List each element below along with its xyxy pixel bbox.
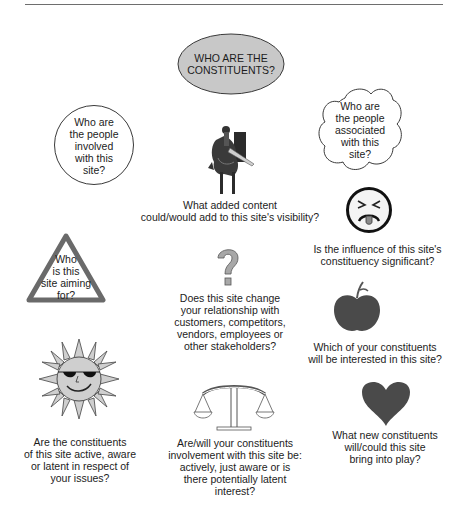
caption-line: interest? <box>160 485 310 497</box>
triangle-line: is this <box>25 265 107 277</box>
circle-line: with this <box>53 152 135 164</box>
triangle-line: site aiming <box>25 277 107 289</box>
cloud-line: associated <box>315 124 405 136</box>
face-caption: Is the influence of this site's constitu… <box>300 243 455 267</box>
cloud-bubble: Who are the people associated with this … <box>315 84 405 174</box>
caption-line: Does this site change <box>150 292 310 304</box>
caption-line: your issues? <box>20 472 140 484</box>
caption-line: of this site active, aware <box>20 448 140 460</box>
heart-caption: What new constituents will/could this si… <box>320 429 450 465</box>
sun-caption: Are the constituents of this site active… <box>20 436 140 484</box>
triangle-line: Who <box>25 253 107 265</box>
circle-line: involved <box>53 140 135 152</box>
caption-line: involvement with this site be: <box>160 449 310 461</box>
title-line-1: WHO ARE THE <box>176 52 286 64</box>
circle-line: site? <box>53 164 135 176</box>
caption-line: vendors, employees or <box>150 328 310 340</box>
disgusted-face-icon <box>345 186 393 234</box>
question-caption: Does this site change your relationship … <box>150 292 310 352</box>
caption-line: constituency significant? <box>300 255 455 267</box>
caption-line: could/would add to this site's visibilit… <box>120 211 340 223</box>
caption-line: bring into play? <box>320 453 450 465</box>
cloud-line: with this <box>315 136 405 148</box>
apple-caption: Which of your constituents will be inter… <box>295 341 455 365</box>
knight-caption: What added content could/would add to th… <box>120 199 340 223</box>
caption-line: will/could this site <box>320 441 450 453</box>
circle-bubble: Who are the people involved with this si… <box>53 104 135 186</box>
top-rule <box>25 4 443 5</box>
sun-with-sunglasses-icon <box>38 338 120 420</box>
caption-line: What new constituents <box>320 429 450 441</box>
caption-line: will be interested in this site? <box>295 353 455 365</box>
caption-line: actively, just aware or is <box>160 461 310 473</box>
caption-line: Are the constituents <box>20 436 140 448</box>
caption-line: Which of your constituents <box>295 341 455 353</box>
apple-icon <box>330 280 385 336</box>
caption-line: there potentially latent <box>160 473 310 485</box>
cloud-line: Who are <box>315 100 405 112</box>
warning-triangle: Who is this site aiming for? <box>25 232 107 306</box>
caption-line: What added content <box>120 199 340 211</box>
cloud-line: the people <box>315 112 405 124</box>
knight-on-horse-icon <box>198 118 260 196</box>
caption-line: customers, competitors, <box>150 316 310 328</box>
caption-line: your relationship with <box>150 304 310 316</box>
title-line-2: CONSTITUENTS? <box>176 64 286 76</box>
circle-line: Who are <box>53 116 135 128</box>
caption-line: other stakeholders? <box>150 340 310 352</box>
triangle-line: for? <box>25 289 107 301</box>
circle-line: the people <box>53 128 135 140</box>
caption-line: Is the influence of this site's <box>300 243 455 255</box>
scales-caption: Are/will your constituents involvement w… <box>160 437 310 497</box>
cloud-line: site? <box>315 148 405 160</box>
title-ellipse: WHO ARE THE CONSTITUENTS? <box>176 32 286 96</box>
question-mark-icon <box>203 244 253 290</box>
caption-line: or latent in respect of <box>20 460 140 472</box>
balance-scales-icon <box>193 380 275 432</box>
heart-icon <box>360 378 412 428</box>
caption-line: Are/will your constituents <box>160 437 310 449</box>
